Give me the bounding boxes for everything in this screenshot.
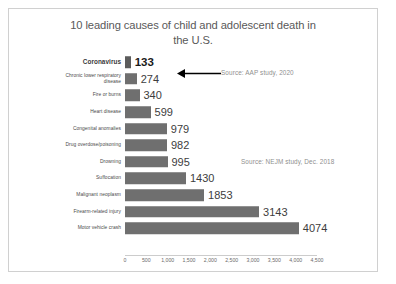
bar-value: 1430 [186,172,214,184]
category-label: Drug overdose/poisoning [21,142,121,148]
chart-title-line-1: 10 leading causes of child and adolescen… [19,18,367,33]
category-label: Drowning [21,159,121,165]
bar-malignant-neoplasm[interactable] [125,189,204,201]
x-tick-label: 1,500 [183,257,196,263]
category-label-line: Heart disease [21,109,121,115]
bar-heart-disease[interactable] [125,106,151,118]
category-label-line: Malignant neoplasm [21,192,121,198]
bar-row[interactable]: Suffocation 1430 [9,170,377,187]
bar-value: 995 [168,156,190,168]
arrow-annotation-icon [177,68,223,79]
category-label-line: Congenital anomalies [21,126,121,132]
bar-row[interactable]: Drug overdose/poisoning 982 [9,137,377,154]
source-note-nejm: Source: NEJM study, Dec. 2018 [241,158,334,165]
plot-area: Coronavirus 133 Chronic lower respirator… [9,54,377,254]
bar-drowning[interactable] [125,156,168,168]
bar-value: 4074 [299,222,327,234]
category-label-line: Suffocation [21,175,121,181]
category-label: Coronavirus [21,59,121,65]
bar-row[interactable]: Motor vehicle crash 4074 [9,220,377,237]
bar-drug-overdose-poisoning[interactable] [125,140,167,152]
bar-value: 982 [167,139,189,151]
chart-frame: 10 leading causes of child and adolescen… [8,8,378,272]
bar-firearm-related-injury[interactable] [125,206,259,218]
bar-value: 1853 [204,189,232,201]
x-tick-label: 2,000 [204,257,217,263]
bar-row[interactable]: Malignant neoplasm 1853 [9,187,377,204]
bar-value: 3143 [259,206,287,218]
bar-motor-vehicle-crash[interactable] [125,222,299,234]
x-tick-label: 1,000 [161,257,174,263]
x-axis-line [125,255,317,256]
category-label-line: Motor vehicle crash [21,225,121,231]
bar-row[interactable]: Fire or burns 340 [9,87,377,104]
category-label: Motor vehicle crash [21,225,121,231]
category-label-line: Fire or burns [21,92,121,98]
bar-value: 979 [167,123,189,135]
chart-title: 10 leading causes of child and adolescen… [19,18,367,48]
category-label-line: disease [21,79,121,85]
x-tick-label: 500 [142,257,151,263]
x-tick-label: 4,500 [311,257,324,263]
x-tick-label: 3,500 [268,257,281,263]
category-label-line: Firearm-related injury [21,209,121,215]
x-tick-label: 4,000 [289,257,302,263]
x-tick-label: 3,000 [247,257,260,263]
bar-value: 274 [137,73,159,85]
category-label: Malignant neoplasm [21,192,121,198]
category-label: Chronic lower respiratory disease [21,73,121,85]
bar-fire-or-burns[interactable] [125,90,140,102]
category-label-line: Drug overdose/poisoning [21,142,121,148]
category-label: Fire or burns [21,92,121,98]
category-label: Suffocation [21,175,121,181]
chart-title-line-2: the U.S. [19,33,367,48]
bar-value: 340 [140,89,162,101]
category-label-line: Drowning [21,159,121,165]
category-label-line: Coronavirus [21,59,121,65]
category-label: Heart disease [21,109,121,115]
bar-value: 599 [151,106,173,118]
bar-row[interactable]: Firearm-related injury 3143 [9,203,377,220]
bar-congenital-anomalies[interactable] [125,123,167,135]
x-tick-label: 0 [124,257,127,263]
source-note-aap: Source: AAP study, 2020 [221,69,294,76]
bar-row[interactable]: Congenital anomalies 979 [9,120,377,137]
x-tick-label: 2,500 [225,257,238,263]
bar-chronic-lower-respiratory-disease[interactable] [125,73,137,85]
bar-value: 133 [131,56,154,68]
category-label: Firearm-related injury [21,209,121,215]
x-axis: 0 500 1,000 1,500 2,000 2,500 3,000 3,50… [9,255,377,269]
category-label: Congenital anomalies [21,126,121,132]
bar-row[interactable]: Heart disease 599 [9,104,377,121]
bar-suffocation[interactable] [125,173,186,185]
